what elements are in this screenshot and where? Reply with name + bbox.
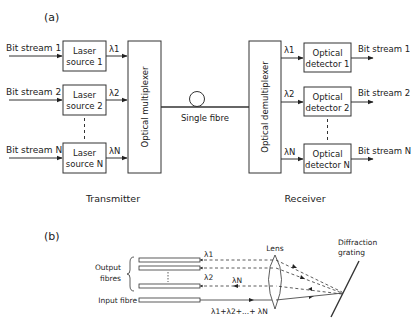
output-fibres-label-1: Output <box>95 263 121 272</box>
svg-text:Laser: Laser <box>73 90 97 100</box>
output-fibres-brace <box>127 257 134 291</box>
lens-label: Lens <box>266 244 283 253</box>
part-b-label: (b) <box>44 230 60 243</box>
svg-text:λN: λN <box>109 146 120 156</box>
svg-text:Optical: Optical <box>312 149 342 159</box>
svg-text:detector 2: detector 2 <box>306 103 350 113</box>
svg-text:detector 1: detector 1 <box>306 59 350 69</box>
output-fibre-1 <box>139 258 200 262</box>
wdm-diagram: (a) Bit stream 1 Bit <box>0 0 415 329</box>
transmitter-caption: Transmitter <box>85 193 140 204</box>
svg-text:Optical: Optical <box>312 92 342 102</box>
svg-text:λ1: λ1 <box>109 44 119 54</box>
lambda1-label: λ1 <box>204 250 213 259</box>
svg-text:λN: λN <box>284 147 295 157</box>
single-fibre-label: Single fibre <box>181 113 229 123</box>
output-fibre-2 <box>139 266 200 270</box>
grating-label-1: Diffraction <box>338 238 377 247</box>
output-label-n: Bit stream N <box>358 146 411 156</box>
svg-text:Laser: Laser <box>73 46 97 56</box>
input-label-n: Bit stream N <box>6 145 62 155</box>
svg-text:Laser: Laser <box>73 148 97 158</box>
diffraction-grating <box>331 261 359 317</box>
fibre-loop <box>190 92 205 107</box>
output-label-1: Bit stream 1 <box>358 44 410 54</box>
receiver-caption: Receiver <box>284 193 325 204</box>
svg-text:source 2: source 2 <box>66 101 102 111</box>
lens <box>269 255 282 309</box>
lambdan-label: λN <box>232 276 242 285</box>
input-label-1: Bit stream 1 <box>6 43 61 53</box>
svg-text:source N: source N <box>66 159 103 169</box>
grating-label-2: grating <box>338 248 365 257</box>
input-fibre-label: Input fibre <box>98 296 137 305</box>
input-fibre <box>139 298 200 302</box>
svg-text:λ1: λ1 <box>284 45 294 55</box>
lambda-sum-label: λ1+λ2+...+ λN <box>211 307 268 316</box>
svg-text:detector N: detector N <box>305 160 350 170</box>
lambda2-label: λ2 <box>204 273 213 282</box>
svg-text:λ2: λ2 <box>284 89 294 99</box>
output-fibre-n <box>139 284 200 288</box>
input-label-2: Bit stream 2 <box>6 87 61 97</box>
multiplexer-label: Optical multiplexer <box>140 66 150 147</box>
output-label-2: Bit stream 2 <box>358 88 410 98</box>
svg-text:source 1: source 1 <box>66 57 102 67</box>
output-fibres-label-2: fibres <box>100 274 121 283</box>
demultiplexer-label: Optical demultiplexer <box>260 61 270 153</box>
svg-text:λ2: λ2 <box>109 88 119 98</box>
svg-text:Optical: Optical <box>312 48 342 58</box>
part-a-label: (a) <box>44 11 59 24</box>
